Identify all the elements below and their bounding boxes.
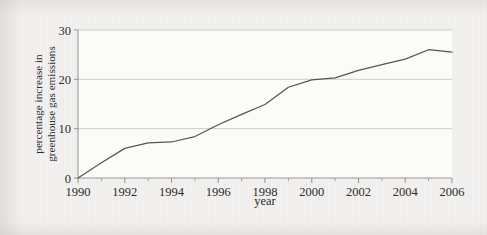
x-tick-label-2000: 2000 <box>299 185 324 199</box>
x-tick-label-1992: 1992 <box>112 185 137 199</box>
x-tick-label-1996: 1996 <box>206 185 231 199</box>
x-tick-label-1994: 1994 <box>159 185 185 199</box>
y-tick-label-0: 0 <box>65 172 71 186</box>
chart-canvas: 199019921994199619982000200220042006 010… <box>0 0 487 235</box>
x-axis-title: year <box>254 194 276 208</box>
y-axis-title-line-1: percentage increase in <box>32 54 44 154</box>
figure-container: 199019921994199619982000200220042006 010… <box>0 0 487 235</box>
x-tick-label-2004: 2004 <box>393 185 419 199</box>
y-tick-label-30: 30 <box>59 24 72 38</box>
x-tick-label-1990: 1990 <box>66 185 91 199</box>
x-tick-label-2006: 2006 <box>440 185 465 199</box>
y-axis-title-line-2: greenhouse gas emissions <box>45 46 57 162</box>
y-ticks-group <box>74 30 78 178</box>
y-tick-labels-group: 0102030 <box>59 24 72 186</box>
x-major-ticks-group <box>78 178 452 183</box>
y-tick-label-20: 20 <box>59 73 72 87</box>
y-tick-label-10: 10 <box>59 122 72 136</box>
x-tick-label-2002: 2002 <box>346 185 371 199</box>
